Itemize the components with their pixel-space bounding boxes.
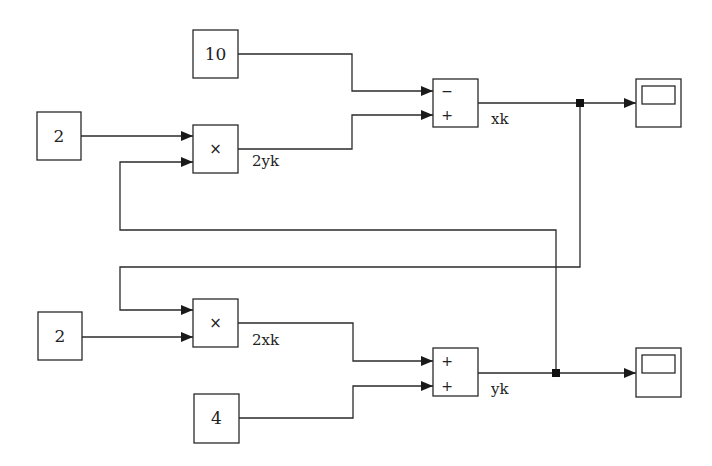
product-block-top[interactable]: ×	[193, 125, 238, 173]
signal-label-2yk: 2yk	[252, 152, 280, 170]
signal-label-yk: yk	[490, 380, 509, 398]
constant-value: 10	[205, 44, 227, 64]
wire-2yk-to-sum-top-plus	[238, 115, 433, 149]
constant-block-2-top[interactable]: 2	[37, 112, 81, 160]
scope-icon	[642, 355, 675, 373]
multiply-icon: ×	[209, 140, 222, 158]
product-block-bottom[interactable]: ×	[193, 299, 238, 347]
constant-value: 4	[211, 408, 222, 428]
block-diagram: 10 2 × − + × 2 + + 4	[0, 0, 712, 466]
constant-block-2-bottom[interactable]: 2	[38, 312, 82, 360]
constant-value: 2	[54, 126, 65, 146]
multiply-icon: ×	[209, 314, 222, 332]
constant-value: 2	[55, 326, 66, 346]
sum-block-bottom[interactable]: + +	[433, 348, 478, 396]
constant-block-10[interactable]: 10	[193, 30, 238, 78]
signal-label-xk: xk	[491, 110, 509, 128]
scope-block-top[interactable]	[636, 79, 681, 127]
wire-10-to-sum-top-minus	[238, 54, 433, 91]
signal-label-2xk: 2xk	[252, 331, 280, 349]
sum-block-top[interactable]: − +	[433, 79, 478, 127]
junction-yk	[552, 369, 560, 377]
constant-block-4[interactable]: 4	[194, 394, 239, 443]
plus-sign: +	[441, 353, 453, 369]
minus-sign: −	[441, 83, 453, 99]
wire-4-to-sum-bottom	[239, 386, 433, 418]
scope-block-bottom[interactable]	[636, 348, 681, 397]
plus-sign: +	[441, 378, 453, 394]
plus-sign: +	[441, 107, 453, 123]
scope-icon	[642, 86, 675, 104]
wire-xk-feedback-to-product-bottom	[120, 103, 580, 310]
junction-xk	[576, 99, 584, 107]
